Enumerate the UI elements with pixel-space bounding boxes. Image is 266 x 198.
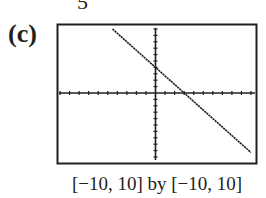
plot-frame [58, 25, 257, 164]
window-caption: [−10, 10] by [−10, 10] [57, 173, 257, 195]
graphing-calculator-window [0, 0, 266, 198]
data-line [113, 29, 252, 153]
